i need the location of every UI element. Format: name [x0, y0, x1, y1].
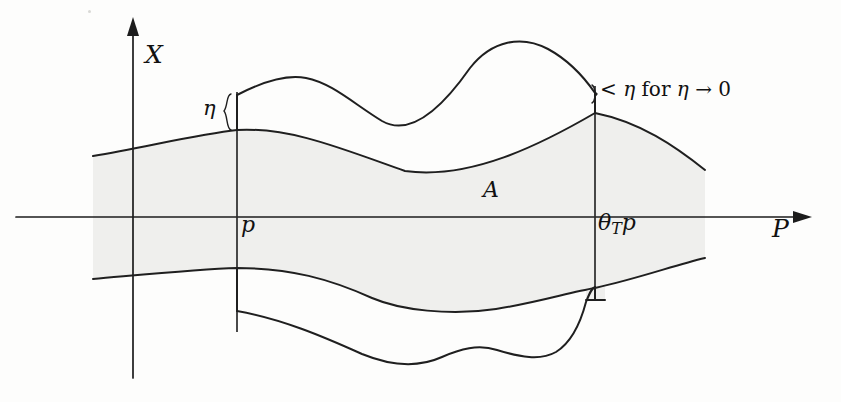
outer-upper-curve — [237, 41, 595, 125]
eta-condition-label: < η for η → 0 — [600, 79, 731, 99]
paper-speck — [88, 10, 91, 13]
p-axis-arrowhead — [793, 211, 812, 223]
figure-canvas: X P p θTp A η < η for η → 0 — [0, 0, 841, 402]
right-arrow-symbol: → — [695, 77, 712, 101]
p-axis-label: P — [772, 216, 789, 241]
theta-t-p-marker-label: θTp — [598, 212, 636, 237]
p-marker-label: p — [241, 214, 255, 236]
eta-brace — [224, 94, 231, 130]
theta-symbol: θ — [598, 210, 611, 235]
eta-symbol-1: η — [623, 77, 635, 101]
region-a-label: A — [483, 179, 499, 201]
theta-tail-p: p — [622, 210, 636, 235]
eta-symbol-2: η — [677, 77, 689, 101]
zero-digit: 0 — [718, 77, 731, 101]
eta-label: η — [203, 98, 216, 119]
for-word: for — [641, 77, 670, 101]
theta-subscript: T — [611, 219, 622, 238]
x-axis-arrowhead — [127, 17, 139, 36]
less-than-symbol: < — [600, 77, 617, 101]
diagram-svg — [0, 0, 841, 402]
x-axis-label: X — [145, 42, 163, 67]
